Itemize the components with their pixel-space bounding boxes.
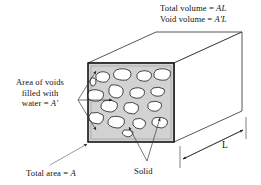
label-void-volume: Void volume = A'L	[160, 14, 227, 25]
label-area-of-voids-value: A'	[51, 98, 58, 108]
label-total-volume: Total volume = AL	[160, 3, 226, 14]
label-length-L: L	[222, 140, 228, 151]
leader-total-area	[50, 144, 87, 165]
label-area-of-voids-line3-wrap: water = A'	[4, 98, 76, 109]
label-void-volume-text: Void volume =	[160, 14, 215, 24]
label-void-volume-value: A'L	[215, 14, 227, 24]
label-area-of-voids-line1: Area of voids	[4, 77, 76, 88]
label-area-of-voids-line2: filled with	[4, 88, 76, 99]
figure-soil-element-diagram: Total volume = AL Void volume = A'L Area…	[0, 0, 261, 185]
label-total-volume-text: Total volume =	[160, 3, 216, 13]
label-area-of-voids: Area of voids filled with water = A'	[4, 77, 76, 109]
label-total-volume-value: AL	[216, 3, 226, 13]
label-total-area-text: Total area =	[26, 168, 70, 178]
label-total-area: Total area = A	[26, 168, 76, 179]
label-total-area-value: A	[70, 168, 75, 178]
label-area-of-voids-line3: water =	[22, 98, 51, 108]
label-solid: Solid	[134, 166, 153, 177]
prism-3d	[88, 32, 242, 142]
